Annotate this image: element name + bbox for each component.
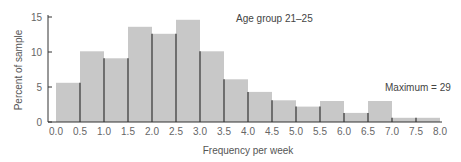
y-axis-title: Percent of sample xyxy=(13,29,24,110)
x-tick-label: 2.5 xyxy=(169,126,183,137)
x-tick-label: 8.0 xyxy=(433,126,447,137)
y-axis-ticks: 051015 xyxy=(31,12,52,128)
y-tick-label: 5 xyxy=(36,82,42,93)
x-axis-ticks: 0.00.51.01.52.02.53.03.54.04.55.05.56.06… xyxy=(49,126,447,137)
x-tick-label: 5.0 xyxy=(289,126,303,137)
histogram-bar xyxy=(152,34,176,122)
y-tick-label: 10 xyxy=(31,47,43,58)
x-tick-label: 4.5 xyxy=(265,126,279,137)
histogram-bars xyxy=(56,20,440,122)
histogram-bar xyxy=(272,100,296,122)
x-tick-label: 7.5 xyxy=(409,126,423,137)
x-tick-label: 6.0 xyxy=(337,126,351,137)
x-tick-label: 5.5 xyxy=(313,126,327,137)
x-tick-label: 1.0 xyxy=(97,126,111,137)
histogram-bar xyxy=(224,79,248,122)
histogram-chart: 051015 0.00.51.01.52.02.53.03.54.04.55.0… xyxy=(0,0,461,162)
histogram-bar xyxy=(176,20,200,122)
x-tick-label: 0.0 xyxy=(49,126,63,137)
maximum-annotation: Maximum = 29 xyxy=(385,82,451,93)
histogram-bar xyxy=(56,83,80,122)
histogram-bar xyxy=(368,101,392,122)
x-tick-label: 1.5 xyxy=(121,126,135,137)
x-tick-label: 0.5 xyxy=(73,126,87,137)
x-tick-label: 3.5 xyxy=(217,126,231,137)
age-group-annotation: Age group 21–25 xyxy=(236,13,313,24)
x-tick-label: 2.0 xyxy=(145,126,159,137)
histogram-bar xyxy=(344,113,368,122)
histogram-bar xyxy=(104,58,128,122)
y-tick-label: 15 xyxy=(31,12,43,23)
x-axis-title: Frequency per week xyxy=(203,145,295,156)
histogram-bar xyxy=(320,101,344,122)
histogram-bar xyxy=(128,27,152,122)
y-tick-label: 0 xyxy=(36,117,42,128)
x-tick-label: 4.0 xyxy=(241,126,255,137)
x-tick-label: 7.0 xyxy=(385,126,399,137)
histogram-bar xyxy=(80,51,104,122)
x-tick-label: 6.5 xyxy=(361,126,375,137)
histogram-bar xyxy=(392,118,416,122)
histogram-bar xyxy=(200,51,224,122)
histogram-bar xyxy=(296,107,320,122)
histogram-bar xyxy=(416,118,440,122)
histogram-bar xyxy=(248,92,272,122)
x-tick-label: 3.0 xyxy=(193,126,207,137)
